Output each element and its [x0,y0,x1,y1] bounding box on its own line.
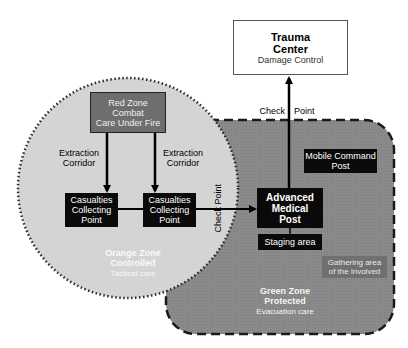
orange-zone-label: Orange Zone Controlled Tactical care [78,248,188,278]
red-zone-line1: Red Zone [108,98,148,108]
staging-area-box: Staging area [258,234,322,250]
casualties-collecting-point-2: Casualties Collecting Point [143,193,196,227]
check-point-top-right: Point [294,106,324,116]
trauma-center-title-1: Trauma [271,31,310,43]
casualties-collecting-point-1: Casualties Collecting Point [65,193,118,227]
red-zone-line2: Combat [112,108,144,118]
gathering-area-box: Gathering area of the involved [322,256,387,278]
green-zone-label: Green Zone Protected Evacuation care [230,286,340,316]
trauma-center-box: Trauma Center Damage Control [233,20,348,75]
trauma-center-subtitle: Damage Control [258,55,324,65]
check-point-top-left: Check [251,106,285,116]
check-point-side-label: Check Point [213,178,223,238]
red-zone-box: Red Zone Combat Care Under Fire [90,92,166,133]
advanced-medical-post-box: Advanced Medical Post [257,188,323,228]
extraction-corridor-label-2: Extraction Corridor [157,148,209,169]
mobile-command-post-box: Mobile Command Post [304,149,377,173]
trauma-center-title-2: Center [273,43,308,55]
extraction-corridor-label-1: Extraction Corridor [53,148,105,169]
red-zone-line3: Care Under Fire [96,118,161,128]
